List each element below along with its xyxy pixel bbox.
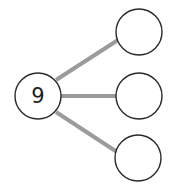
child-node-middle[interactable] <box>116 73 162 119</box>
connector-top <box>56 40 118 80</box>
answer-circle-top[interactable] <box>116 9 162 55</box>
number-bond-diagram: 9 <box>0 0 173 195</box>
child-node-bottom[interactable] <box>115 135 161 181</box>
root-label: 9 <box>31 84 44 108</box>
connector-bottom <box>56 112 117 152</box>
child-node-top[interactable] <box>116 9 162 55</box>
root-node: 9 <box>15 73 61 119</box>
answer-circle-bottom[interactable] <box>115 135 161 181</box>
answer-circle-middle[interactable] <box>116 73 162 119</box>
